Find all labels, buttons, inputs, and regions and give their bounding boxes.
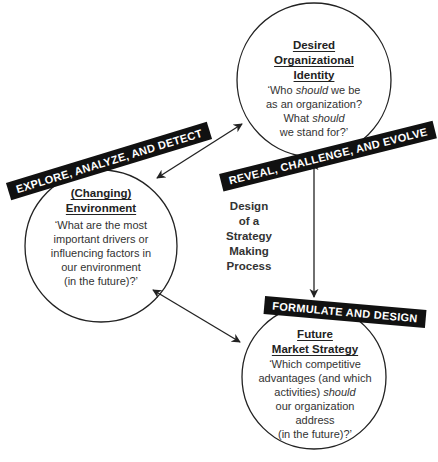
q-text: What	[283, 112, 312, 124]
q-italic: should	[323, 386, 355, 398]
q-text: ‘What are the most	[36, 218, 166, 232]
q-text: ‘Which competitive	[249, 357, 381, 371]
q-text: our organization	[249, 399, 381, 413]
environment-heading-2: Environment	[36, 201, 166, 216]
q-text: address	[249, 413, 381, 427]
q-text: our environment	[36, 260, 166, 274]
center-label-line: of a	[215, 214, 283, 229]
identity-heading-3: Identity	[249, 68, 379, 83]
node-strategy: Future Market Strategy ‘Which competitiv…	[249, 327, 381, 441]
q-text: ‘Who	[268, 84, 296, 96]
strategy-heading-2: Market Strategy	[249, 342, 381, 357]
identity-question: ‘Who should we be as an organization? Wh…	[249, 83, 379, 139]
strategy-question: ‘Which competitive advantages (and which…	[249, 357, 381, 441]
q-text: as an organization?	[249, 97, 379, 111]
center-label: Design of a Strategy Making Process	[215, 199, 283, 274]
environment-question: ‘What are the most important drivers or …	[36, 218, 166, 288]
identity-heading-2: Organizational	[249, 53, 379, 68]
node-identity: Desired Organizational Identity ‘Who sho…	[249, 38, 379, 139]
q-text: (in the future)?’	[249, 427, 381, 441]
q-italic: should	[312, 112, 344, 124]
strategy-heading-1: Future	[249, 327, 381, 342]
q-text: (in the future)?’	[36, 274, 166, 288]
q-text: advantages (and which	[249, 371, 381, 385]
edge-environment-strategy	[153, 290, 240, 342]
identity-heading-1: Desired	[249, 38, 379, 53]
q-text: activities)	[274, 386, 323, 398]
q-text: we stand for?’	[249, 125, 379, 139]
center-label-line: Process	[215, 259, 283, 274]
center-label-line: Strategy	[215, 229, 283, 244]
q-text: important drivers or	[36, 232, 166, 246]
center-label-line: Making	[215, 244, 283, 259]
q-text: influencing factors in	[36, 246, 166, 260]
q-italic: should	[296, 84, 328, 96]
q-text: we be	[328, 84, 360, 96]
environment-heading-1: (Changing)	[36, 186, 166, 201]
center-label-line: Design	[215, 199, 283, 214]
node-environment: (Changing) Environment ‘What are the mos…	[36, 186, 166, 288]
